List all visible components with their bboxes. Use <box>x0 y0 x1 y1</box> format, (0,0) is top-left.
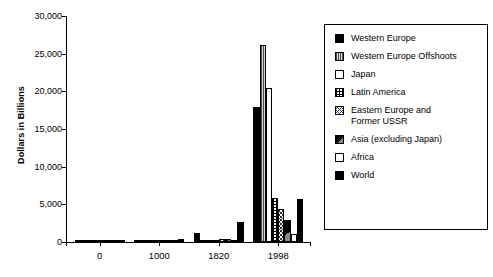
x-tick-mark <box>278 242 279 246</box>
legend-swatch-icon <box>335 135 344 144</box>
y-tick-label: 25,000 <box>4 49 62 58</box>
bar <box>297 199 303 242</box>
legend-label: Western Europe Offshoots <box>351 51 457 62</box>
legend-item[interactable]: Eastern Europe and Former USSR <box>335 105 481 126</box>
y-tick-label: 30,000 <box>4 12 62 21</box>
legend-item[interactable]: Japan <box>335 69 481 80</box>
legend-label: World <box>351 170 374 181</box>
y-tick-label: 20,000 <box>4 87 62 96</box>
bar-group <box>253 16 303 242</box>
legend-item[interactable]: Africa <box>335 152 481 163</box>
legend-label: Eastern Europe and Former USSR <box>351 105 431 126</box>
x-tick-label: 1820 <box>194 250 244 261</box>
legend-item[interactable]: Western Europe Offshoots <box>335 51 481 62</box>
legend-item[interactable]: Latin America <box>335 87 481 98</box>
legend-item[interactable]: World <box>335 170 481 181</box>
x-axis-end-tick <box>310 242 311 246</box>
bar <box>178 239 184 242</box>
x-axis-end-tick <box>66 242 67 246</box>
legend-item[interactable]: Asia (excluding Japan) <box>335 134 481 145</box>
legend-swatch-icon <box>335 52 344 61</box>
bar <box>118 240 124 242</box>
legend-swatch-icon <box>335 106 344 115</box>
bar <box>237 222 243 242</box>
legend-item[interactable]: Western Europe <box>335 33 481 44</box>
bar-group <box>134 16 184 242</box>
x-tick-mark <box>159 242 160 246</box>
chart-legend: Western EuropeWestern Europe OffshootsJa… <box>324 24 488 230</box>
bar-group <box>194 16 244 242</box>
legend-swatch-icon <box>335 88 344 97</box>
bar-group <box>75 16 125 242</box>
legend-label: Africa <box>351 152 374 163</box>
plot-area: 0100018201998 <box>66 16 304 242</box>
legend-swatch-icon <box>335 70 344 79</box>
y-tick-label: 0 <box>4 238 62 247</box>
legend-label: Western Europe <box>351 33 416 44</box>
y-axis-line <box>66 16 67 242</box>
bar-chart-figure: Dollars in Billions 05,00010,00015,00020… <box>0 0 493 277</box>
legend-swatch-icon <box>335 34 344 43</box>
legend-label: Japan <box>351 69 376 80</box>
legend-swatch-icon <box>335 153 344 162</box>
y-tick-label: 5,000 <box>4 200 62 209</box>
legend-swatch-icon <box>335 171 344 180</box>
x-axis-line <box>66 242 310 243</box>
y-tick-label: 15,000 <box>4 125 62 134</box>
legend-label: Asia (excluding Japan) <box>351 134 442 145</box>
x-tick-label: 1000 <box>134 250 184 261</box>
x-tick-mark <box>100 242 101 246</box>
x-tick-label: 0 <box>75 250 125 261</box>
x-tick-label: 1998 <box>253 250 303 261</box>
legend-label: Latin America <box>351 87 406 98</box>
y-tick-label: 10,000 <box>4 162 62 171</box>
x-tick-mark <box>219 242 220 246</box>
